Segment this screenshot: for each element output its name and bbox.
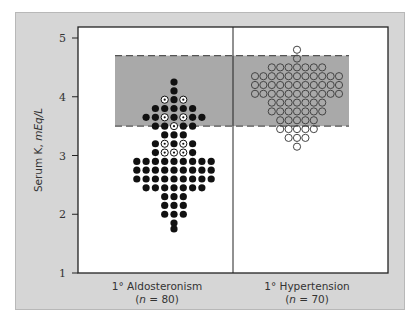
filled-dot <box>170 131 177 138</box>
band-fill <box>115 56 349 127</box>
filled-dot <box>152 114 159 121</box>
filled-dot <box>189 114 196 121</box>
filled-dot <box>198 158 205 165</box>
filled-dot <box>170 167 177 174</box>
dot-center <box>173 151 175 153</box>
filled-dot <box>143 184 150 191</box>
scatter-chart: 12345 Serum K, mEq/L 1° Aldosteronism (n… <box>0 0 419 329</box>
normal-range-band <box>115 56 349 127</box>
filled-dot <box>180 123 187 130</box>
dot-center <box>182 151 184 153</box>
group1-n: (n = 80) <box>135 293 179 305</box>
filled-dot <box>180 211 187 218</box>
filled-dot <box>152 123 159 130</box>
filled-dot <box>198 114 205 121</box>
filled-dot <box>133 167 140 174</box>
dot-center <box>182 116 184 118</box>
filled-dot <box>180 131 187 138</box>
dot-center <box>182 99 184 101</box>
dot-center <box>164 116 166 118</box>
filled-dot <box>161 202 168 209</box>
filled-dot <box>152 175 159 182</box>
filled-dot <box>170 158 177 165</box>
group2-label: 1° Hypertension <box>264 280 350 292</box>
filled-dot <box>170 96 177 103</box>
dot-center <box>164 151 166 153</box>
filled-dot <box>189 184 196 191</box>
y-tick-label: 3 <box>59 150 66 163</box>
filled-dot <box>189 158 196 165</box>
filled-dot <box>198 184 205 191</box>
filled-dot <box>170 211 177 218</box>
y-tick-label: 1 <box>59 267 66 280</box>
filled-dot <box>180 193 187 200</box>
y-tick-label: 2 <box>59 208 66 221</box>
filled-dot <box>198 175 205 182</box>
filled-dot <box>170 114 177 121</box>
filled-dot <box>180 167 187 174</box>
filled-dot <box>152 184 159 191</box>
filled-dot <box>170 87 177 94</box>
filled-dot <box>161 131 168 138</box>
filled-dot <box>133 175 140 182</box>
filled-dot <box>161 175 168 182</box>
filled-dot <box>189 105 196 112</box>
dot-center <box>173 125 175 127</box>
dot-center <box>164 99 166 101</box>
filled-dot <box>208 175 215 182</box>
filled-dot <box>180 105 187 112</box>
filled-dot <box>161 105 168 112</box>
y-tick-label: 5 <box>59 32 66 45</box>
filled-dot <box>189 149 196 156</box>
filled-dot <box>161 158 168 165</box>
filled-dot <box>143 175 150 182</box>
filled-dot <box>161 211 168 218</box>
filled-dot <box>143 114 150 121</box>
dot-center <box>164 143 166 145</box>
filled-dot <box>170 105 177 112</box>
filled-dot <box>189 175 196 182</box>
filled-dot <box>170 225 177 232</box>
filled-dot <box>152 140 159 147</box>
filled-dot <box>189 167 196 174</box>
filled-dot <box>161 193 168 200</box>
filled-dot <box>180 158 187 165</box>
filled-dot <box>170 140 177 147</box>
filled-dot <box>143 158 150 165</box>
filled-dot <box>180 202 187 209</box>
filled-dot <box>208 158 215 165</box>
filled-dot <box>170 184 177 191</box>
y-axis-label-unit: mEq/L <box>32 108 44 141</box>
filled-dot <box>170 175 177 182</box>
dot-center <box>182 143 184 145</box>
filled-dot <box>161 123 168 130</box>
filled-dot <box>198 167 205 174</box>
filled-dot <box>170 78 177 85</box>
filled-dot <box>170 193 177 200</box>
filled-dot <box>143 167 150 174</box>
filled-dot <box>133 158 140 165</box>
filled-dot <box>189 140 196 147</box>
filled-dot <box>180 175 187 182</box>
filled-dot <box>161 184 168 191</box>
filled-dot <box>180 184 187 191</box>
group1-label: 1° Aldosteronism <box>112 280 202 292</box>
filled-dot <box>208 167 215 174</box>
y-axis-label: Serum K, mEq/L <box>32 108 44 192</box>
filled-dot <box>170 202 177 209</box>
filled-dot <box>189 123 196 130</box>
y-axis-ticks: 12345 <box>59 32 78 280</box>
group2-n: (n = 70) <box>285 293 329 305</box>
y-tick-label: 4 <box>59 91 66 104</box>
filled-dot <box>161 167 168 174</box>
filled-dot <box>152 105 159 112</box>
y-axis-label-plain: Serum K, <box>32 141 44 192</box>
filled-dot <box>152 149 159 156</box>
filled-dot <box>152 158 159 165</box>
filled-dot <box>152 167 159 174</box>
